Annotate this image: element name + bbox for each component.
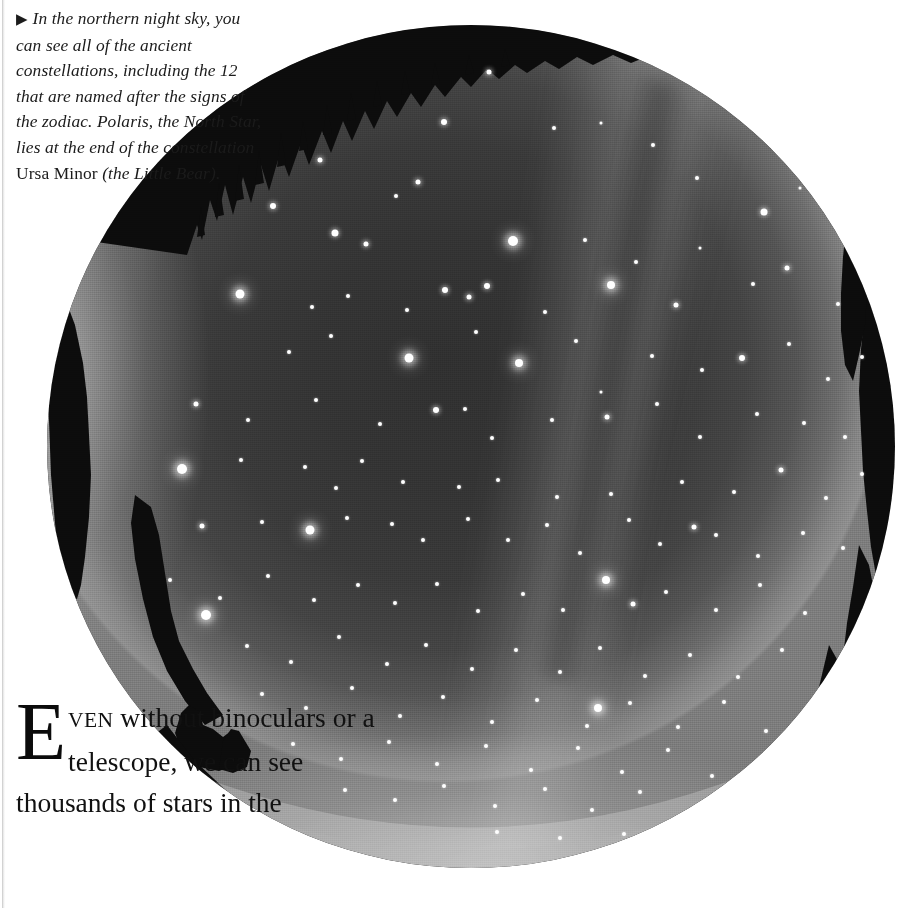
star <box>785 266 790 271</box>
star <box>585 724 589 728</box>
star <box>688 653 692 657</box>
star <box>598 646 602 650</box>
star <box>260 692 264 696</box>
star <box>761 209 768 216</box>
star <box>416 180 421 185</box>
star <box>843 435 847 439</box>
star <box>590 808 594 812</box>
star <box>714 533 718 537</box>
star <box>550 418 554 422</box>
star <box>739 355 745 361</box>
star <box>421 538 425 542</box>
star <box>802 421 806 425</box>
star <box>405 354 414 363</box>
right-triangle-bullet-icon: ▶ <box>16 11 28 27</box>
star <box>722 700 726 704</box>
star <box>755 412 759 416</box>
star <box>620 770 624 774</box>
star <box>312 598 316 602</box>
star <box>364 242 369 247</box>
star <box>561 608 565 612</box>
star <box>714 608 718 612</box>
star <box>337 635 341 639</box>
star <box>860 355 864 359</box>
star <box>826 377 830 381</box>
star <box>287 350 291 354</box>
star <box>318 158 323 163</box>
star <box>801 531 805 535</box>
star <box>378 422 382 426</box>
star <box>393 601 397 605</box>
star <box>405 308 409 312</box>
star <box>692 525 697 530</box>
star <box>529 768 533 772</box>
star <box>474 330 478 334</box>
caption-line-5: the zodiac. Polaris, the <box>16 111 179 131</box>
body-smallcaps: VEN <box>68 708 113 732</box>
star <box>303 465 307 469</box>
star <box>609 492 613 496</box>
star <box>583 238 587 242</box>
star <box>495 830 499 834</box>
star <box>466 517 470 521</box>
star <box>676 725 680 729</box>
body-line-2: binoculars or a <box>211 702 374 733</box>
star <box>360 459 364 463</box>
star <box>841 546 845 550</box>
star <box>236 290 245 299</box>
star <box>600 391 603 394</box>
photo-caption: ▶In the northern night sky, you can see … <box>16 6 266 186</box>
star <box>332 230 339 237</box>
star <box>710 774 714 778</box>
star <box>543 310 547 314</box>
star <box>700 368 704 372</box>
star <box>650 354 654 358</box>
star <box>394 194 398 198</box>
star <box>168 578 172 582</box>
star <box>552 126 556 130</box>
star <box>545 523 549 527</box>
star <box>732 490 736 494</box>
star <box>680 480 684 484</box>
star <box>246 418 250 422</box>
star <box>605 415 610 420</box>
star <box>666 748 670 752</box>
star <box>245 644 249 648</box>
star <box>487 70 492 75</box>
star <box>356 583 360 587</box>
star <box>699 247 702 250</box>
star <box>457 485 461 489</box>
scan-gutter-line <box>2 0 5 908</box>
star <box>836 302 840 306</box>
star <box>310 305 314 309</box>
star <box>424 643 428 647</box>
star <box>239 458 243 462</box>
star <box>860 472 864 476</box>
star <box>346 294 350 298</box>
star <box>787 342 791 346</box>
star <box>490 436 494 440</box>
star <box>508 236 518 246</box>
body-line-4: thousands of stars in the <box>16 787 282 818</box>
caption-constellation-name: Ursa Minor <box>16 163 98 183</box>
star <box>638 790 642 794</box>
body-line-3: telescope, we can see <box>68 746 303 777</box>
star <box>467 295 472 300</box>
caption-line-8: constellation <box>163 137 254 157</box>
star <box>779 468 784 473</box>
star <box>476 609 480 613</box>
star <box>329 334 333 338</box>
star <box>345 516 349 520</box>
caption-line-10: (the Little <box>102 163 171 183</box>
body-line-1-rest: without <box>120 702 204 733</box>
star <box>201 610 211 620</box>
star <box>177 464 187 474</box>
star <box>515 359 523 367</box>
star <box>594 704 602 712</box>
star <box>576 746 580 750</box>
star <box>558 836 562 840</box>
star <box>751 282 755 286</box>
star <box>435 582 439 586</box>
star <box>764 729 768 733</box>
star <box>535 698 539 702</box>
